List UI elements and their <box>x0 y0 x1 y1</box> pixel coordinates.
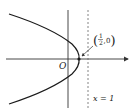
origin-label: O <box>59 61 67 71</box>
point-label-close-paren: ) <box>111 33 116 48</box>
parabola-diagram: O ( 1 2 , 0 ) x = 1 <box>0 0 135 111</box>
dashed-line-label: x = 1 <box>93 94 114 103</box>
vertex-point <box>77 57 80 60</box>
point-label-numerator: 1 <box>99 32 103 39</box>
point-label-denominator: 2 <box>99 39 103 46</box>
point-label-open-paren: ( <box>93 33 98 48</box>
label-arrow <box>82 46 93 56</box>
point-label: ( 1 2 , 0 ) <box>93 32 116 48</box>
